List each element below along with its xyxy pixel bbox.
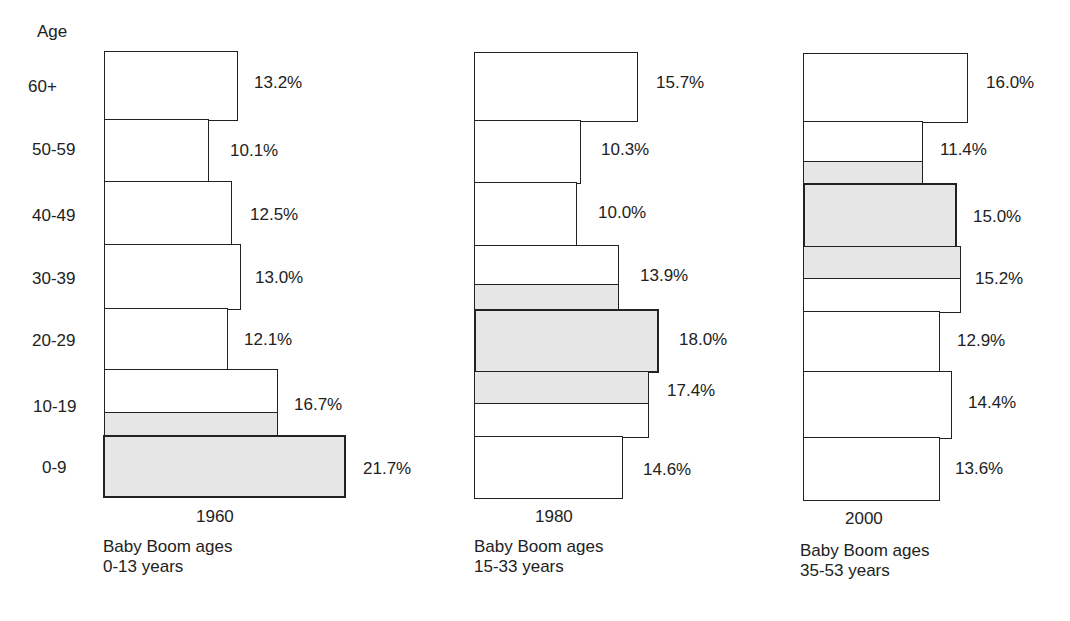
pct-2000-0-9: 13.6% (955, 459, 1003, 479)
age-label-60plus: 60+ (28, 77, 57, 97)
bar-1980-0-9 (474, 436, 623, 499)
bar-1980-60plus (474, 52, 638, 122)
bar-1960-50-59 (104, 119, 209, 183)
pct-1980-40-49: 10.0% (598, 203, 646, 223)
bar-1960-20-29 (104, 308, 228, 371)
bar-1960-40-49 (104, 181, 232, 246)
age-label-30-39: 30-39 (32, 269, 75, 289)
pct-1960-20-29: 12.1% (244, 330, 292, 350)
pct-1960-40-49: 12.5% (250, 205, 298, 225)
pct-1960-60plus: 13.2% (254, 73, 302, 93)
bar-1980-30-39 (474, 245, 619, 311)
bar-1960-0-9-boomer (103, 435, 346, 498)
year-label-1980: 1980 (535, 507, 573, 527)
bar-1980-10-19 (474, 371, 649, 438)
bar-2000-0-9 (803, 437, 940, 501)
boomer-segment (804, 161, 922, 184)
bar-2000-10-19 (803, 371, 952, 439)
bar-1980-20-29-boomer (474, 309, 659, 373)
note-line: Baby Boom ages (474, 537, 603, 557)
pct-1980-30-39: 13.9% (640, 266, 688, 286)
bar-2000-50-59 (803, 121, 923, 185)
pct-2000-50-59: 11.4% (940, 140, 987, 160)
age-label-40-49: 40-49 (32, 206, 75, 226)
bar-2000-30-39 (803, 246, 961, 313)
bar-1980-50-59 (474, 120, 581, 184)
bar-1960-10-19 (104, 369, 278, 437)
pct-1980-50-59: 10.3% (601, 140, 649, 160)
pct-1980-60plus: 15.7% (656, 73, 704, 93)
pct-2000-40-49: 15.0% (973, 207, 1021, 227)
note-line: Baby Boom ages (800, 541, 929, 561)
bar-2000-20-29 (803, 311, 940, 373)
boomer-segment (105, 412, 277, 436)
pct-1980-20-29: 18.0% (679, 330, 727, 350)
age-label-20-29: 20-29 (32, 331, 75, 351)
pct-1980-10-19: 17.4% (667, 381, 715, 401)
age-axis-title: Age (37, 22, 67, 42)
chart-title-cropped (0, 0, 1070, 6)
note-line: 0-13 years (103, 557, 232, 577)
boomer-segment (475, 372, 648, 404)
age-label-0-9: 0-9 (42, 458, 67, 478)
bar-2000-40-49-boomer (803, 183, 957, 248)
pct-1960-30-39: 13.0% (255, 268, 303, 288)
age-label-50-59: 50-59 (32, 140, 75, 160)
pct-2000-30-39: 15.2% (975, 269, 1023, 289)
pct-1960-0-9: 21.7% (363, 459, 411, 479)
pct-2000-20-29: 12.9% (957, 331, 1005, 351)
note-line: 35-53 years (800, 561, 929, 581)
note-1960: Baby Boom ages 0-13 years (103, 537, 232, 577)
bar-2000-60plus (803, 53, 968, 123)
bar-1980-40-49 (474, 182, 577, 247)
pct-2000-10-19: 14.4% (968, 393, 1016, 413)
boomer-segment (475, 284, 618, 310)
year-label-1960: 1960 (196, 507, 234, 527)
year-label-2000: 2000 (845, 509, 883, 529)
note-line: Baby Boom ages (103, 537, 232, 557)
bar-1960-60plus (104, 51, 238, 121)
bar-1960-30-39 (104, 244, 241, 310)
note-2000: Baby Boom ages 35-53 years (800, 541, 929, 581)
pct-1980-0-9: 14.6% (643, 460, 691, 480)
boomer-segment (804, 247, 960, 279)
note-1980: Baby Boom ages 15-33 years (474, 537, 603, 577)
age-label-10-19: 10-19 (33, 397, 76, 417)
pct-1960-50-59: 10.1% (230, 141, 278, 161)
pct-1960-10-19: 16.7% (294, 395, 342, 415)
note-line: 15-33 years (474, 557, 603, 577)
pct-2000-60plus: 16.0% (986, 73, 1034, 93)
